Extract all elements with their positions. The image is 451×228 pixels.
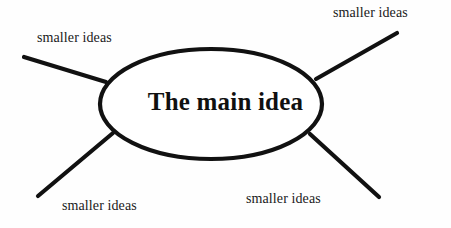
- branch-line-bottom-right[interactable]: [310, 134, 379, 197]
- branch-line-top-right[interactable]: [316, 33, 397, 79]
- branch-label-bottom-left: smaller ideas: [62, 199, 137, 213]
- branch-label-top-left: smaller ideas: [37, 31, 112, 45]
- branch-label-bottom-right: smaller ideas: [246, 192, 321, 206]
- branch-line-bottom-left[interactable]: [38, 133, 113, 196]
- central-node-label: The main idea: [0, 88, 451, 116]
- branch-line-top-left[interactable]: [24, 57, 106, 82]
- mind-map-diagram: The main idea smaller ideas smaller idea…: [0, 0, 451, 228]
- branch-label-top-right: smaller ideas: [333, 6, 408, 20]
